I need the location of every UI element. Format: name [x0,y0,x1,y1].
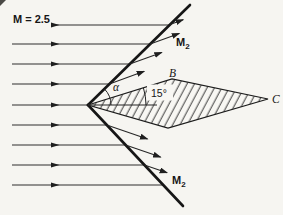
streamline-arrowhead [51,182,60,187]
scan-corner-mark [0,0,6,6]
figure-page: M = 2.5 M2 M2 B C α 15° [0,0,283,215]
upper-mach2-base: M [176,36,185,48]
streamline-arrowhead [51,142,60,147]
supersonic-diamond-airfoil-diagram: M = 2.5 M2 M2 B C α 15° [0,0,283,215]
upper-mach2-subscript: 2 [185,42,190,51]
streamline-arrowhead [51,41,60,46]
lower-mach2-label: M2 [172,174,186,189]
streamline-arrowhead [51,22,60,27]
wedge-angle-label: 15° [151,87,167,99]
lower-mach2-subscript: 2 [181,180,186,189]
deflected-flow-arrows-lower [107,125,167,173]
streamline-arrowhead [51,122,60,127]
vertex-c-label: C [272,93,280,105]
streamline-arrowhead [51,61,60,66]
streamline-arrowhead [51,81,60,86]
streamline-arrowhead [51,162,60,167]
streamline-arrowhead [51,102,60,107]
lower-mach2-base: M [172,174,181,186]
upper-mach2-label: M2 [176,36,190,51]
vertex-b-label: B [169,67,176,79]
alpha-angle-label: α [113,81,120,93]
freestream-mach-label: M = 2.5 [13,13,50,25]
